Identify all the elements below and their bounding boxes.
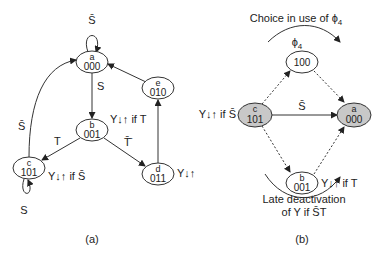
edge-c-a <box>29 60 76 157</box>
node-e-code: 010 <box>150 87 167 98</box>
phi4-label: ϕ4 <box>292 36 303 51</box>
annotation-c: Y↓↑ if S̄ <box>48 170 85 182</box>
diagram-b-text: Choice in use of ϕ4 ϕ4 100 c 101 a 000 b… <box>199 12 363 245</box>
bottom-annotation-line2: of Y if S̄T <box>282 206 327 218</box>
node-100-code: 100 <box>294 57 311 68</box>
bottom-annotation-line1: Late deactivation <box>262 193 345 205</box>
edge-label-c-self: S <box>20 204 27 216</box>
edge-a-self <box>86 36 97 53</box>
caption-a: (a) <box>85 233 98 245</box>
node-c-code: 101 <box>21 167 38 178</box>
edge-c-100 <box>262 71 290 104</box>
edge-label-a-self: S̄ <box>88 14 95 26</box>
node-a-b-id: a <box>351 104 356 114</box>
node-a-b-code: 000 <box>346 114 363 125</box>
node-c-b-code: 101 <box>247 114 264 125</box>
edge-label-b-d: T̄̄ <box>124 136 133 148</box>
node-a-code: 000 <box>84 61 101 72</box>
edge-c-b <box>262 126 290 172</box>
annotation-c-b: Y↓↑ if S̄ <box>199 108 236 120</box>
edge-c-self <box>23 179 30 193</box>
node-d-code: 011 <box>150 173 166 184</box>
edge-b-a <box>314 127 344 174</box>
edge-100-a <box>314 71 344 102</box>
state-diagram-figure: a 000 b 001 c 101 d 011 e 010 S̄ S T T̄̄… <box>0 0 378 258</box>
annotation-b-b: Y↓↑ if T <box>321 177 358 189</box>
top-annotation: Choice in use of ϕ4 <box>250 12 343 27</box>
annotation-d: Y↓↑ <box>177 167 195 179</box>
edge-b-c <box>42 138 80 160</box>
node-b-b-code: 001 <box>294 182 311 193</box>
edge-label-c-a-b: S̄ <box>298 100 305 112</box>
caption-b: (b) <box>295 233 308 245</box>
node-b-code: 001 <box>84 129 101 140</box>
annotation-b: Y↓↑ if T <box>110 113 147 125</box>
arc-choice <box>268 26 340 43</box>
edge-label-a-b: S <box>97 80 104 92</box>
edge-label-c-a: S̄ <box>18 120 25 132</box>
node-c-b-id: c <box>253 104 258 114</box>
edge-label-b-c: T <box>54 135 61 147</box>
edge-e-a <box>108 64 146 82</box>
